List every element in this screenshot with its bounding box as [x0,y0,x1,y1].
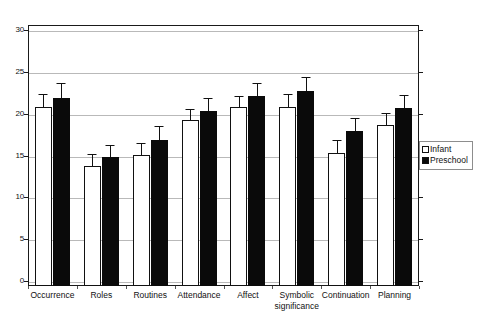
error-bar [257,83,258,96]
bar-preschool [248,96,265,286]
error-bar-cap [204,98,213,99]
error-bar [110,145,111,158]
error-bar-cap [381,113,390,114]
bar-infant [35,107,52,286]
bar-preschool [346,131,363,286]
error-bar [190,109,191,120]
y-tick-mark-right-0 [419,281,423,282]
bar-preschool [395,108,412,286]
bar-group [224,25,273,286]
bar-group [272,25,321,286]
error-bar-cap [301,77,310,78]
y-tick-label-30: 30 [16,26,25,34]
x-tick-mark [28,286,29,289]
bar-infant [328,153,345,286]
filled-square-marker [422,157,429,164]
legend-item: Preschool [422,155,468,166]
bar-infant [182,120,199,286]
error-bar-cap [137,143,146,144]
error-bar-cap [39,94,48,95]
bar-preschool [102,157,119,286]
error-bar [337,140,338,153]
x-tick-mark [272,286,273,289]
error-bar-cap [332,140,341,141]
chart-legend: InfantPreschool [419,141,473,170]
error-bar [306,77,307,91]
error-bar-cap [88,154,97,155]
grouped-bar-chart: 051015202530 OccurrenceRolesRoutinesAtte… [0,0,485,325]
x-tick-mark [77,286,78,289]
error-bar-cap [283,94,292,95]
error-bar [288,94,289,107]
bar-preschool [200,111,217,286]
error-bar-cap [350,118,359,119]
error-bar [208,98,209,111]
bar-group [126,25,175,286]
error-bar-cap [186,109,195,110]
error-bar [159,126,160,140]
x-tick-mark [224,286,225,289]
x-tick-mark [175,286,176,289]
x-tick-mark [419,286,420,289]
x-tick-mark [321,286,322,289]
y-tick-mark-right-20 [419,114,423,115]
x-tick-mark [126,286,127,289]
bar-group [77,25,126,286]
bar-group [321,25,370,286]
y-tick-label-10: 10 [16,193,25,201]
open-square-marker [422,146,429,153]
error-bar [386,113,387,126]
bar-infant [377,125,394,286]
error-bar [355,118,356,131]
error-bar [92,154,93,167]
bar-group [370,25,419,286]
y-tick-mark-right-25 [419,72,423,73]
error-bar-cap [234,96,243,97]
error-bar [61,83,62,98]
y-tick-label-15: 15 [16,152,25,160]
legend-label: Infant [430,145,451,154]
y-axis: 051015202530 [0,25,28,286]
error-bar-cap [155,126,164,127]
bar-groups [28,25,419,286]
bar-preschool [151,140,168,286]
y-tick-mark-right-30 [419,30,423,31]
bar-group [175,25,224,286]
bar-infant [84,166,101,286]
y-tick-label-25: 25 [16,68,25,76]
legend-item: Infant [422,144,468,155]
x-tick-mark [370,286,371,289]
error-bar-cap [106,145,115,146]
error-bar [43,94,44,107]
y-tick-mark-right-10 [419,197,423,198]
bar-infant [279,107,296,286]
error-bar [404,95,405,108]
bar-group [28,25,77,286]
y-tick-label-20: 20 [16,110,25,118]
bar-infant [230,107,247,286]
x-axis-label: Planning [358,290,431,301]
bar-preschool [53,98,70,286]
bar-preschool [297,91,314,286]
error-bar-cap [57,83,66,84]
error-bar [141,143,142,155]
bar-infant [133,155,150,286]
x-axis-labels: OccurrenceRolesRoutinesAttendanceAffectS… [28,290,419,322]
error-bar-cap [252,83,261,84]
legend-label: Preschool [430,156,468,165]
y-tick-mark-right-5 [419,239,423,240]
error-bar [239,96,240,107]
error-bar-cap [399,95,408,96]
